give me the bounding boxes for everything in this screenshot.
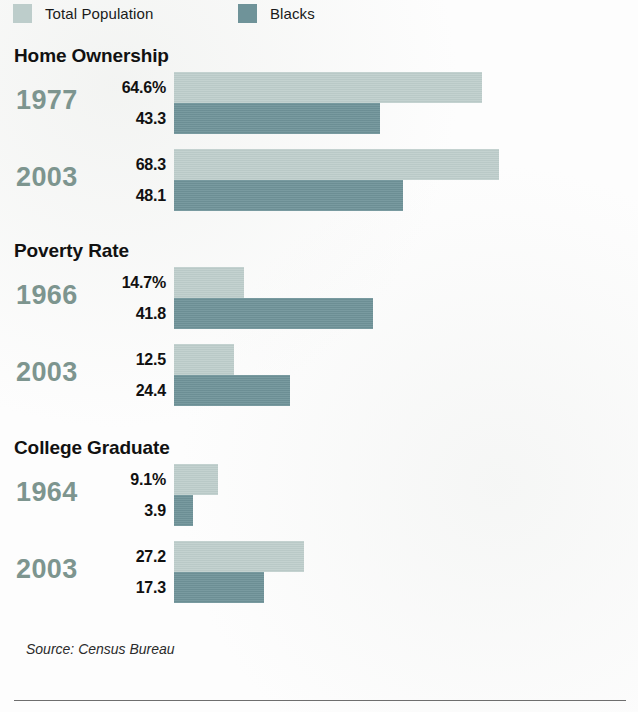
legend-swatch-icon — [13, 4, 32, 23]
bar-blacks — [174, 103, 380, 134]
bar-row: 9.1% — [0, 464, 638, 495]
bar-row: 27.2 — [0, 541, 638, 572]
bar-value-label: 68.3 — [136, 156, 166, 174]
bar-value-label: 17.3 — [136, 579, 166, 597]
bar-value-label: 64.6% — [122, 79, 166, 97]
bar-blacks — [174, 495, 193, 526]
bar-value-label: 43.3 — [136, 110, 166, 128]
bar-group: 1966 14.7% 41.8 — [0, 267, 638, 329]
bar-row: 3.9 — [0, 495, 638, 526]
bar-row: 64.6% — [0, 72, 638, 103]
section-title: College Graduate — [14, 437, 170, 459]
bar-blacks — [174, 375, 290, 406]
legend-item-blacks: Blacks — [238, 4, 315, 23]
bar-row: 17.3 — [0, 572, 638, 603]
bar-row: 24.4 — [0, 375, 638, 406]
section-title: Home Ownership — [14, 45, 169, 67]
bar-group: 1977 64.6% 43.3 — [0, 72, 638, 134]
bar-total-population — [174, 464, 218, 495]
bar-blacks — [174, 298, 373, 329]
bar-row: 48.1 — [0, 180, 638, 211]
bar-row: 41.8 — [0, 298, 638, 329]
bar-value-label: 27.2 — [136, 548, 166, 566]
bar-row: 43.3 — [0, 103, 638, 134]
bar-group: 2003 27.2 17.3 — [0, 541, 638, 603]
bar-value-label: 24.4 — [136, 382, 166, 400]
chart-page: Total Population Blacks Home Ownership 1… — [0, 0, 638, 712]
bar-value-label: 14.7% — [122, 274, 166, 292]
legend-item-total-population: Total Population — [13, 4, 153, 23]
bar-total-population — [174, 267, 244, 298]
legend-label: Total Population — [45, 5, 153, 22]
bar-total-population — [174, 541, 304, 572]
bar-total-population — [174, 149, 499, 180]
bar-value-label: 9.1% — [130, 471, 166, 489]
bar-group: 2003 12.5 24.4 — [0, 344, 638, 406]
bar-group: 2003 68.3 48.1 — [0, 149, 638, 211]
chart-legend: Total Population Blacks — [0, 0, 638, 34]
bar-blacks — [174, 180, 403, 211]
bar-row: 14.7% — [0, 267, 638, 298]
bar-blacks — [174, 572, 264, 603]
bar-value-label: 3.9 — [144, 502, 166, 520]
bar-row: 68.3 — [0, 149, 638, 180]
bar-value-label: 12.5 — [136, 351, 166, 369]
bar-total-population — [174, 344, 234, 375]
bar-group: 1964 9.1% 3.9 — [0, 464, 638, 526]
source-note: Source: Census Bureau — [26, 641, 175, 657]
bar-row: 12.5 — [0, 344, 638, 375]
section-title: Poverty Rate — [14, 240, 129, 262]
legend-label: Blacks — [270, 5, 315, 22]
bar-value-label: 48.1 — [136, 187, 166, 205]
bar-total-population — [174, 72, 482, 103]
bar-value-label: 41.8 — [136, 305, 166, 323]
footer-divider — [14, 700, 626, 701]
legend-swatch-icon — [238, 4, 257, 23]
